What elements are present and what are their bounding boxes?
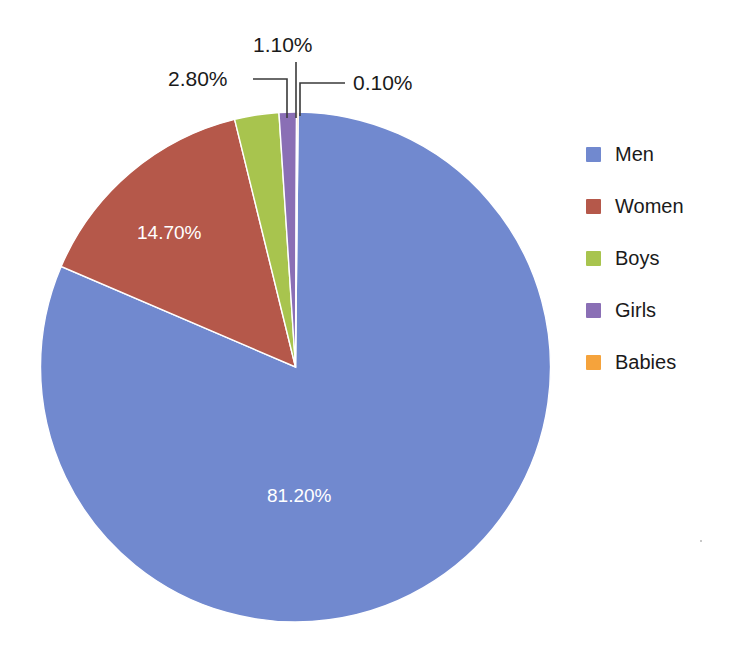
slice-label-men: 81.20% (267, 485, 332, 506)
legend-item-men[interactable]: Men (586, 128, 726, 180)
legend-label-women: Women (615, 195, 684, 218)
legend-item-babies[interactable]: Babies (586, 336, 726, 388)
legend-item-boys[interactable]: Boys (586, 232, 726, 284)
legend-swatch-girls (586, 303, 601, 318)
legend-swatch-women (586, 199, 601, 214)
pie-slices (40, 112, 550, 622)
callout-label-babies: 0.10% (353, 71, 413, 94)
callout-leader-lines (253, 62, 345, 118)
scan-speck (700, 540, 702, 542)
legend-swatch-boys (586, 251, 601, 266)
legend-swatch-men (586, 147, 601, 162)
chart-legend: Men Women Boys Girls Babies (586, 128, 726, 388)
leader-line-babies (300, 83, 345, 116)
callout-label-boys: 2.80% (168, 67, 228, 90)
callout-label-girls: 1.10% (253, 33, 313, 56)
legend-swatch-babies (586, 355, 601, 370)
legend-label-babies: Babies (615, 351, 676, 374)
legend-label-men: Men (615, 143, 654, 166)
legend-label-girls: Girls (615, 299, 656, 322)
legend-label-boys: Boys (615, 247, 659, 270)
slice-label-women: 14.70% (137, 222, 202, 243)
legend-item-girls[interactable]: Girls (586, 284, 726, 336)
legend-item-women[interactable]: Women (586, 180, 726, 232)
pie-chart: 2.80% 1.10% 0.10% 14.70% 81.20% Men Wome… (0, 0, 730, 661)
